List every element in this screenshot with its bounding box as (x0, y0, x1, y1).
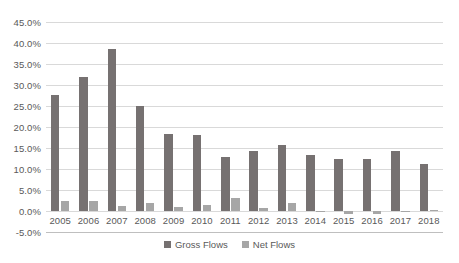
bar-gross-flows-2013[interactable] (278, 145, 287, 211)
bar-net-flows-2012[interactable] (259, 208, 268, 211)
bar-gross-flows-2016[interactable] (363, 159, 372, 211)
bar-net-flows-2011[interactable] (231, 198, 240, 211)
bar-net-flows-2015[interactable] (344, 211, 353, 214)
x-axis-tick-label-2018: 2018 (415, 215, 443, 226)
legend-swatch-icon (242, 241, 249, 248)
bar-gross-flows-2018[interactable] (420, 164, 429, 211)
bar-net-flows-2013[interactable] (288, 203, 297, 211)
bar-net-flows-2007[interactable] (118, 206, 127, 211)
bar-net-flows-2006[interactable] (89, 201, 98, 212)
x-axis-tick-label-2014: 2014 (301, 215, 329, 226)
x-axis-tick-label-2013: 2013 (273, 215, 301, 226)
y-axis-tick-label: 30.0% (14, 80, 41, 91)
x-axis-tick-label-2011: 2011 (216, 215, 244, 226)
x-axis-tick-label-2016: 2016 (358, 215, 386, 226)
bar-net-flows-2014[interactable] (316, 211, 325, 212)
bar-gross-flows-2017[interactable] (391, 151, 400, 211)
bar-gross-flows-2006[interactable] (79, 77, 88, 211)
bar-net-flows-2017[interactable] (401, 211, 410, 212)
y-axis-tick-label: 40.0% (14, 38, 41, 49)
x-axis-tick-label-2010: 2010 (188, 215, 216, 226)
legend-item-gross-flows[interactable]: Gross Flows (164, 239, 228, 250)
bar-gross-flows-2009[interactable] (164, 134, 173, 211)
y-axis-labels: 45.0%40.0%35.0%30.0%25.0%20.0%15.0%10.0%… (0, 0, 46, 263)
bar-gross-flows-2011[interactable] (221, 157, 230, 211)
y-axis-tick-label: -5.0% (16, 227, 41, 238)
legend-label: Net Flows (253, 239, 295, 250)
x-axis-tick-label-2015: 2015 (330, 215, 358, 226)
y-axis-tick-label: 0.0% (19, 206, 41, 217)
x-axis-tick-label-2017: 2017 (386, 215, 414, 226)
chart-container: 45.0%40.0%35.0%30.0%25.0%20.0%15.0%10.0%… (0, 0, 459, 263)
y-axis-tick-label: 10.0% (14, 164, 41, 175)
x-axis-tick-label-2012: 2012 (245, 215, 273, 226)
bar-gross-flows-2007[interactable] (108, 49, 117, 211)
bar-gross-flows-2010[interactable] (193, 135, 202, 211)
x-axis-tick-label-2008: 2008 (131, 215, 159, 226)
bar-net-flows-2010[interactable] (203, 205, 212, 211)
legend-label: Gross Flows (175, 239, 228, 250)
y-axis-tick-label: 20.0% (14, 122, 41, 133)
bar-gross-flows-2014[interactable] (306, 155, 315, 211)
bar-net-flows-2016[interactable] (373, 211, 382, 214)
y-axis-tick-label: 35.0% (14, 59, 41, 70)
chart-legend: Gross FlowsNet Flows (0, 239, 459, 250)
bar-gross-flows-2008[interactable] (136, 106, 145, 211)
bar-net-flows-2009[interactable] (174, 207, 183, 211)
bar-gross-flows-2015[interactable] (334, 159, 343, 211)
y-axis-tick-label: 15.0% (14, 143, 41, 154)
bar-gross-flows-2005[interactable] (51, 95, 60, 211)
y-axis-tick-label: 25.0% (14, 101, 41, 112)
bar-net-flows-2018[interactable] (430, 210, 439, 211)
bar-net-flows-2005[interactable] (61, 201, 70, 211)
x-axis-tick-label-2007: 2007 (103, 215, 131, 226)
bar-gross-flows-2012[interactable] (249, 151, 258, 211)
legend-item-net-flows[interactable]: Net Flows (242, 239, 295, 250)
x-axis-labels: 2005200620072008200920102011201220132014… (46, 215, 443, 231)
y-axis-tick-label: 45.0% (14, 17, 41, 28)
x-axis-tick-label-2005: 2005 (46, 215, 74, 226)
y-axis-tick-label: 5.0% (19, 185, 41, 196)
x-axis-tick-label-2006: 2006 (74, 215, 102, 226)
bar-net-flows-2008[interactable] (146, 203, 155, 211)
x-axis-tick-label-2009: 2009 (159, 215, 187, 226)
legend-swatch-icon (164, 241, 171, 248)
